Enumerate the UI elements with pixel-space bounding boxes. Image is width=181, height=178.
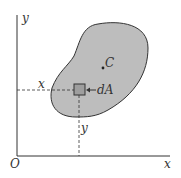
element-dA-square <box>74 84 85 95</box>
y-distance-label: y <box>80 121 88 135</box>
centroid-dot <box>102 67 105 70</box>
origin-label: O <box>10 157 20 171</box>
x-axis-label: x <box>164 157 171 171</box>
y-axis-label: y <box>21 11 29 25</box>
shaded-region <box>51 23 148 117</box>
x-distance-label: x <box>38 77 45 91</box>
element-dA-label: dA <box>97 83 114 97</box>
centroid-diagram: y x O C dA x y <box>0 0 181 178</box>
centroid-label: C <box>105 56 114 70</box>
